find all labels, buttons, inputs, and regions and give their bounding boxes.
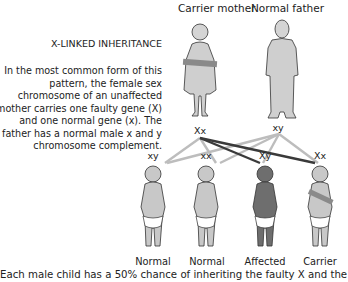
father-genotype: xy bbox=[263, 122, 293, 133]
diagram-description: In the most common form of this pattern,… bbox=[0, 65, 162, 153]
mother-genotype: Xx bbox=[185, 125, 215, 136]
father-figure bbox=[266, 20, 298, 118]
child-genotype: Xy bbox=[250, 150, 280, 161]
father-label: Normal father bbox=[251, 2, 324, 14]
child-figure bbox=[141, 166, 165, 246]
child-label: Carrier bbox=[292, 256, 348, 267]
diaper bbox=[143, 216, 163, 228]
child-genotype: xx bbox=[191, 150, 221, 161]
mother-label: Carrier mother bbox=[178, 2, 255, 14]
child-figure bbox=[194, 166, 218, 246]
child-label: Affected bbox=[237, 256, 293, 267]
child-label: Normal bbox=[179, 256, 235, 267]
diagram-title: X-LINKED INHERITANCE bbox=[51, 38, 162, 49]
child-label: Normal bbox=[125, 256, 181, 267]
mother-figure bbox=[183, 24, 217, 116]
diaper bbox=[196, 216, 216, 228]
child-figure bbox=[308, 166, 334, 246]
inheritance-lines bbox=[165, 134, 318, 163]
child-genotype: xy bbox=[138, 150, 168, 161]
children-figures bbox=[141, 166, 334, 246]
diaper bbox=[255, 216, 275, 228]
diaper bbox=[310, 216, 330, 228]
footer-text: Each male child has a 50% chance of inhe… bbox=[0, 269, 346, 280]
child-genotype: Xx bbox=[305, 150, 335, 161]
child-figure bbox=[253, 166, 277, 246]
